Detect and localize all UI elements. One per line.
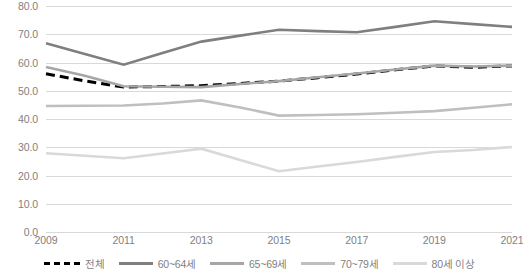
legend-item-60-64[interactable]: 60~64세: [119, 256, 196, 271]
series-line-70~79세: [46, 100, 512, 115]
x-tick-label: 2019: [423, 234, 446, 246]
legend-swatch-icon: [44, 262, 80, 265]
legend-label: 80세 이상: [432, 256, 475, 271]
series-line-65~69세: [46, 66, 512, 87]
legend-item-total[interactable]: 전체: [44, 256, 105, 271]
x-tick-label: 2017: [345, 234, 368, 246]
x-tick-label: 2011: [113, 234, 135, 246]
gridline-0: [46, 232, 512, 233]
y-tick-label: 50.0: [18, 85, 38, 97]
y-tick-label: 30.0: [18, 141, 38, 153]
y-tick-label: 10.0: [18, 198, 38, 210]
legend-label: 60~64세: [158, 256, 196, 271]
legend-swatch-icon: [119, 262, 153, 265]
legend-label: 전체: [85, 256, 105, 271]
legend-label: 70~79세: [340, 256, 378, 271]
x-tick-label: 2021: [501, 234, 523, 246]
y-axis-tick-labels: 0.010.020.030.040.050.060.070.080.0: [0, 6, 42, 232]
y-tick-label: 60.0: [18, 57, 38, 69]
legend-label: 65~69세: [249, 256, 287, 271]
y-tick-label: 20.0: [18, 170, 38, 182]
x-tick-label: 2009: [35, 234, 58, 246]
legend-swatch-icon: [210, 262, 244, 265]
x-tick-label: 2015: [268, 234, 291, 246]
legend-item-65-69[interactable]: 65~69세: [210, 256, 287, 271]
y-tick-label: 80.0: [18, 0, 38, 12]
legend-swatch-icon: [393, 262, 427, 265]
series-line-80세 이상: [46, 147, 512, 171]
x-tick-label: 2013: [190, 234, 213, 246]
series-line-60~64세: [46, 21, 512, 65]
chart-legend: 전체60~64세65~69세70~79세80세 이상: [0, 252, 519, 274]
series-layer: [46, 6, 512, 232]
legend-item-80-plus[interactable]: 80세 이상: [393, 256, 475, 271]
legend-item-70-79[interactable]: 70~79세: [301, 256, 378, 271]
legend-swatch-icon: [301, 262, 335, 265]
y-tick-label: 40.0: [18, 113, 38, 125]
x-axis-tick-labels: 2009201120132015201720192021: [46, 234, 512, 252]
plot-area: [46, 6, 512, 232]
y-tick-label: 70.0: [18, 28, 38, 40]
